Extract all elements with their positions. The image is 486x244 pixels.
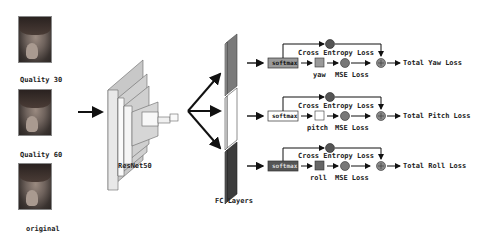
angle-label-pitch: pitch	[307, 124, 328, 132]
angle-label-roll: roll	[310, 174, 327, 182]
resnet50-blocks	[108, 60, 178, 190]
ce-loss-label-roll: Cross Entropy Loss	[298, 152, 374, 160]
diagram-graphics	[0, 0, 486, 244]
mse-loss-label-pitch: MSE Loss	[335, 124, 369, 132]
fc-layer-yaw	[225, 34, 237, 96]
softmax-label-yaw: softmax	[272, 59, 297, 66]
ce-loss-label-pitch: Cross Entropy Loss	[298, 102, 374, 110]
ce-loss-label-yaw: Cross Entropy Loss	[298, 49, 374, 57]
mse-loss-label-roll: MSE Loss	[335, 174, 369, 182]
resnet50-label: ResNet50	[118, 162, 152, 170]
fc-layer-pitch	[225, 88, 237, 150]
angle-label-yaw: yaw	[313, 71, 326, 79]
softmax-label-roll: softmax	[272, 162, 297, 169]
fc-layers-label: FC Layers	[215, 197, 253, 205]
total-loss-label-yaw: Total Yaw Loss	[403, 59, 462, 67]
mse-loss-label-yaw: MSE Loss	[335, 71, 369, 79]
total-loss-label-roll: Total Roll Loss	[403, 162, 466, 170]
total-loss-label-pitch: Total Pitch Loss	[403, 112, 470, 120]
fc-layer-roll	[225, 142, 237, 204]
softmax-label-pitch: softmax	[272, 112, 297, 119]
